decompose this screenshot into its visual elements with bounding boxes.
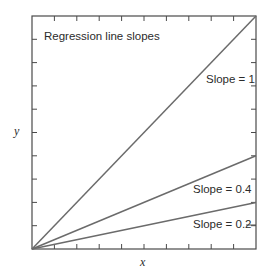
y-axis-label: y [13,124,20,138]
slope-0.4-label: Slope = 0.4 [193,183,252,195]
slope-0.4-line [32,156,256,249]
regression-slopes-chart: Regression line slopes Slope = 1 Slope =… [0,0,269,277]
slope-0.2-label: Slope = 0.2 [193,218,252,230]
chart-title: Regression line slopes [44,30,160,42]
slope-1-label: Slope = 1 [206,73,255,85]
regression-lines [32,16,256,249]
x-axis-label: x [139,255,146,269]
slope-1-line [32,16,256,249]
